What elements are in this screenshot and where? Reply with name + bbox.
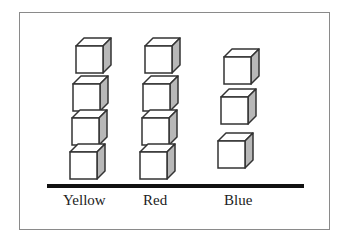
cube-yellow-4 — [76, 38, 111, 73]
cube-red-4 — [145, 38, 180, 73]
cube-pictograph — [0, 0, 347, 241]
label-yellow: Yellow — [63, 191, 106, 209]
cube-blue-3 — [224, 49, 259, 84]
cube-red-3 — [143, 76, 178, 111]
cube-blue-2 — [221, 89, 256, 124]
cube-yellow-1 — [70, 144, 105, 179]
cube-red-1 — [140, 144, 175, 179]
cube-yellow-3 — [73, 76, 108, 111]
cube-red-2 — [142, 110, 177, 145]
label-blue: Blue — [224, 191, 252, 209]
cube-blue-1 — [218, 133, 253, 168]
cube-yellow-2 — [72, 110, 107, 145]
baseline — [47, 184, 304, 188]
label-red: Red — [143, 191, 167, 209]
